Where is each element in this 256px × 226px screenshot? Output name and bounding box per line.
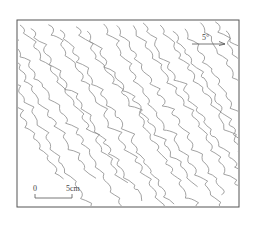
fold-trace-line <box>104 24 243 226</box>
fold-trace-line <box>3 26 140 226</box>
scale-bar <box>35 194 72 198</box>
fold-trace-line <box>173 31 255 187</box>
scale-end-label: 5cm <box>66 185 80 193</box>
figure-frame <box>17 20 239 207</box>
fold-trace-line <box>117 26 224 195</box>
orientation-label: 5° <box>202 34 209 42</box>
fold-trace-line <box>134 26 255 226</box>
fold-trace-line <box>201 23 255 174</box>
fold-trace-line <box>245 24 255 219</box>
fold-trace-line <box>0 28 63 179</box>
fold-trace-line <box>226 31 255 226</box>
fold-trace-line <box>76 27 217 226</box>
scale-start-label: 0 <box>33 185 37 193</box>
fold-traces <box>0 22 255 226</box>
fold-sketch-figure <box>0 0 255 226</box>
orientation-arrow <box>192 42 225 46</box>
fold-trace-line <box>161 25 256 222</box>
fold-trace-line <box>20 25 127 182</box>
